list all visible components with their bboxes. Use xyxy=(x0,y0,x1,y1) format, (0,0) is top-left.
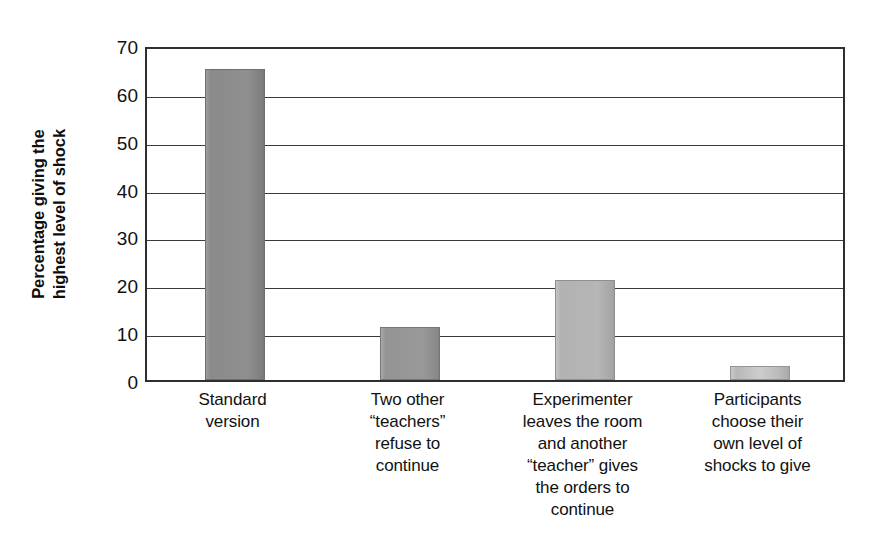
x-axis-label-line: own level of xyxy=(670,433,845,455)
y-tick-label: 30 xyxy=(84,229,138,248)
y-axis-title: Percentage giving the highest level of s… xyxy=(18,47,80,382)
x-axis-label: Experimenterleaves the roomand another“t… xyxy=(495,389,670,522)
y-axis-title-line-1: Percentage giving the xyxy=(28,129,49,299)
bar xyxy=(205,69,265,380)
y-tick-label: 70 xyxy=(84,38,138,57)
x-axis-label-line: leaves the room xyxy=(495,411,670,433)
bar xyxy=(380,327,440,380)
x-axis-label: Standardversion xyxy=(145,389,320,433)
y-axis-tick-labels: 010203040506070 xyxy=(84,0,138,544)
bar xyxy=(555,280,615,381)
x-axis-label-line: continue xyxy=(320,455,495,477)
x-axis-label: Participantschoose theirown level ofshoc… xyxy=(670,389,845,477)
x-axis-category-labels: StandardversionTwo other“teachers”refuse… xyxy=(145,389,845,539)
y-tick-label: 60 xyxy=(84,85,138,104)
y-tick-label: 10 xyxy=(84,325,138,344)
x-axis-label-line: Standard xyxy=(145,389,320,411)
plot-area xyxy=(145,47,845,382)
x-axis-label-line: choose their xyxy=(670,411,845,433)
x-axis-label-line: the orders to xyxy=(495,477,670,499)
y-tick-label: 20 xyxy=(84,277,138,296)
x-axis-label: Two other“teachers”refuse tocontinue xyxy=(320,389,495,477)
x-axis-label-line: “teacher” gives xyxy=(495,455,670,477)
x-axis-label-line: version xyxy=(145,411,320,433)
x-axis-label-line: Experimenter xyxy=(495,389,670,411)
x-axis-label-line: and another xyxy=(495,433,670,455)
x-axis-label-line: refuse to xyxy=(320,433,495,455)
bar xyxy=(730,366,790,380)
x-axis-label-line: Two other xyxy=(320,389,495,411)
x-axis-label-line: Participants xyxy=(670,389,845,411)
x-axis-label-line: shocks to give xyxy=(670,455,845,477)
y-tick-label: 50 xyxy=(84,133,138,152)
bar-chart-figure: Percentage giving the highest level of s… xyxy=(0,0,884,544)
y-tick-label: 40 xyxy=(84,181,138,200)
y-axis-title-line-2: highest level of shock xyxy=(49,129,70,299)
x-axis-label-line: “teachers” xyxy=(320,411,495,433)
x-axis-label-line: continue xyxy=(495,499,670,521)
y-tick-label: 0 xyxy=(84,373,138,392)
